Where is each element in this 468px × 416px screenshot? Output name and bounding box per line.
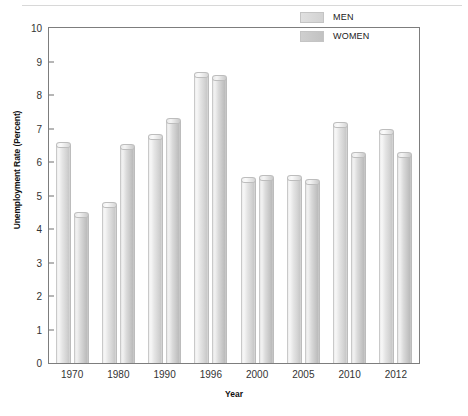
- bar-body: [379, 132, 394, 364]
- bar-men-1996: [194, 72, 209, 363]
- bar-women-1990: [166, 118, 181, 363]
- bar-women-2010: [351, 152, 366, 363]
- bar-cap: [148, 134, 163, 140]
- y-tick-mark: [49, 229, 54, 230]
- legend-entry-men: MEN: [300, 9, 410, 25]
- y-tick-label: 6: [36, 157, 42, 168]
- bar-body: [120, 147, 135, 363]
- bar-body: [212, 78, 227, 363]
- bar-cap: [351, 152, 366, 158]
- y-tick-label: 10: [31, 23, 42, 34]
- bar-body: [397, 155, 412, 363]
- bar-body: [148, 137, 163, 363]
- bar-men-2000: [241, 177, 256, 363]
- x-tick-label-2010: 2010: [339, 369, 361, 380]
- bar-women-1996: [212, 75, 227, 363]
- y-tick-mark: [49, 195, 54, 196]
- bar-cap: [74, 212, 89, 218]
- y-tick-mark: [49, 162, 54, 163]
- bar-cap: [397, 152, 412, 158]
- y-tick-label: 0: [36, 358, 42, 369]
- legend-label: MEN: [333, 12, 354, 22]
- bar-body: [287, 178, 302, 363]
- bar-cap: [194, 72, 209, 78]
- bar-body: [194, 75, 209, 363]
- y-tick-label: 8: [36, 90, 42, 101]
- x-tick-label-2012: 2012: [385, 369, 407, 380]
- chart-legend: MENWOMEN: [300, 9, 410, 47]
- bar-men-1990: [148, 134, 163, 363]
- legend-label: WOMEN: [333, 31, 370, 41]
- y-tick-mark: [49, 61, 54, 62]
- y-tick-mark: [49, 128, 54, 129]
- bar-body: [305, 182, 320, 363]
- bar-cap: [102, 202, 117, 208]
- bar-men-1970: [56, 142, 71, 363]
- bar-cap: [379, 129, 394, 135]
- y-tick-label: 3: [36, 257, 42, 268]
- bar-body: [102, 205, 117, 363]
- unemployment-rate-bar-chart: 012345678910 Unemployment Rate (Percent)…: [0, 0, 468, 416]
- women-swatch: [300, 31, 324, 42]
- bar-cap: [120, 144, 135, 150]
- bar-body: [351, 155, 366, 363]
- bar-body: [333, 125, 348, 363]
- men-swatch: [300, 12, 324, 23]
- bar-cap: [287, 175, 302, 181]
- bar-men-2005: [287, 175, 302, 363]
- bar-body: [166, 121, 181, 363]
- bar-cap: [212, 75, 227, 81]
- y-tick-mark: [49, 329, 54, 330]
- bar-body: [56, 145, 71, 363]
- y-tick-label: 1: [36, 324, 42, 335]
- legend-entry-women: WOMEN: [300, 28, 410, 44]
- bar-cap: [333, 122, 348, 128]
- bar-cap: [241, 177, 256, 183]
- bar-women-2012: [397, 152, 412, 363]
- bar-women-1980: [120, 144, 135, 363]
- y-tick-label: 5: [36, 190, 42, 201]
- x-tick-label-1980: 1980: [107, 369, 129, 380]
- x-tick-label-2005: 2005: [292, 369, 314, 380]
- bar-body: [241, 180, 256, 363]
- bar-cap: [259, 175, 274, 181]
- y-tick-mark: [49, 296, 54, 297]
- bar-cap: [166, 118, 181, 124]
- bar-men-1980: [102, 202, 117, 363]
- y-tick-label: 2: [36, 291, 42, 302]
- bar-cap: [56, 142, 71, 148]
- y-tick-label: 4: [36, 224, 42, 235]
- bar-men-2012: [379, 129, 394, 364]
- bar-women-2000: [259, 175, 274, 363]
- y-tick-label: 9: [36, 56, 42, 67]
- x-tick-label-1990: 1990: [154, 369, 176, 380]
- y-tick-mark: [49, 95, 54, 96]
- x-axis-title: Year: [0, 389, 468, 399]
- bar-body: [74, 215, 89, 363]
- x-tick-label-1970: 1970: [61, 369, 83, 380]
- bar-women-1970: [74, 212, 89, 363]
- bar-women-2005: [305, 179, 320, 363]
- plot-area: 012345678910: [48, 27, 420, 364]
- bar-body: [259, 178, 274, 363]
- x-tick-label-2000: 2000: [246, 369, 268, 380]
- y-axis-title: Unemployment Rate (Percent): [12, 60, 22, 280]
- bar-men-2010: [333, 122, 348, 363]
- bar-cap: [305, 179, 320, 185]
- y-tick-label: 7: [36, 123, 42, 134]
- x-tick-label-1996: 1996: [200, 369, 222, 380]
- top-divider-rule: [22, 5, 462, 6]
- y-tick-mark: [49, 262, 54, 263]
